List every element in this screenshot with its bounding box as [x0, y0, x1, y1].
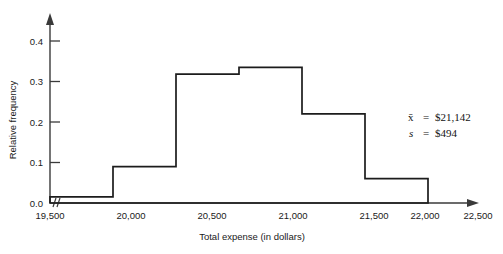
x-tick-label-20500: 20,500: [197, 210, 226, 221]
x-axis-arrowhead: [467, 199, 479, 207]
y-tick-label-0.4: 0.4: [30, 36, 43, 47]
y-axis-arrowhead: [46, 13, 54, 25]
mean-symbol: x̄: [408, 111, 414, 123]
mean-equals: =: [423, 111, 429, 123]
sd-value: $494: [435, 127, 458, 139]
sd-equals: =: [423, 127, 429, 139]
statistics-annotation: x̄ = $21,142 s = $494: [408, 111, 471, 139]
y-axis: 0.4 0.3 0.2 0.1 0.0: [30, 13, 60, 209]
y-tick-label-0.2: 0.2: [30, 117, 43, 128]
y-axis-title: Relative frequency: [7, 80, 18, 159]
x-tick-label-21000: 21,000: [278, 210, 307, 221]
y-tick-label-0.0: 0.0: [30, 198, 43, 209]
sd-symbol: s: [409, 127, 413, 139]
histogram-outline: [50, 67, 428, 203]
y-tick-label-0.3: 0.3: [30, 76, 43, 87]
x-tick-label-19500: 19,500: [35, 210, 64, 221]
y-tick-label-0.1: 0.1: [30, 157, 43, 168]
x-tick-label-20000: 20,000: [116, 210, 145, 221]
x-tick-label-22000: 22,000: [410, 210, 439, 221]
x-tick-label-21500: 21,500: [359, 210, 388, 221]
mean-value: $21,142: [435, 111, 471, 123]
x-tick-label-22500: 22,500: [463, 210, 492, 221]
histogram-bars: [50, 67, 428, 203]
histogram-chart: 0.4 0.3 0.2 0.1 0.0 19,500 20,000 20,500…: [0, 0, 503, 254]
x-axis-title: Total expense (in dollars): [199, 231, 305, 242]
chart-canvas: 0.4 0.3 0.2 0.1 0.0 19,500 20,000 20,500…: [0, 0, 503, 254]
